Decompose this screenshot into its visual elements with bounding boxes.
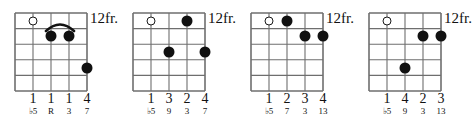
- finger-number: 3: [438, 92, 445, 106]
- chord-labels: 1324♭5937: [132, 92, 204, 124]
- fingered-note-dot: [164, 47, 175, 58]
- interval-row: ♭57313: [250, 107, 322, 122]
- fingered-note-dot: [300, 31, 311, 42]
- interval-label: 13: [437, 107, 446, 116]
- interval-label: ♭5: [265, 107, 274, 116]
- interval-label: 9: [403, 107, 408, 116]
- finger-number: 2: [184, 92, 191, 106]
- finger-number: 3: [302, 92, 309, 106]
- finger-number: 1: [66, 92, 73, 106]
- chord-diagram: 12fr.1114♭5R37: [0, 0, 118, 126]
- chord-labels: 1234♭57313: [250, 92, 322, 124]
- finger-number: 1: [266, 92, 273, 106]
- grid-lines: [14, 12, 88, 92]
- chord-labels: 1423♭59313: [368, 92, 440, 124]
- finger-number: 2: [420, 92, 427, 106]
- finger-number: 4: [202, 92, 209, 106]
- interval-label: 7: [85, 107, 90, 116]
- finger-number: 2: [284, 92, 291, 106]
- interval-label: ♭5: [383, 107, 392, 116]
- finger-number-row: 1114: [14, 92, 86, 107]
- interval-label: ♭5: [147, 107, 156, 116]
- finger-number-row: 1423: [368, 92, 440, 107]
- interval-label: 7: [203, 107, 208, 116]
- finger-number: 1: [148, 92, 155, 106]
- finger-number: 4: [84, 92, 91, 106]
- fretboard-grid: [132, 12, 204, 90]
- finger-number-row: 1234: [250, 92, 322, 107]
- fingered-note-dot: [436, 31, 447, 42]
- interval-label: ♭5: [29, 107, 38, 116]
- interval-label: 7: [285, 107, 290, 116]
- fret-position-label: 12fr.: [444, 11, 472, 26]
- interval-label: R: [48, 107, 54, 116]
- fingered-note-dot: [182, 15, 193, 26]
- fret-position-label: 12fr.: [208, 11, 236, 26]
- finger-number: 1: [384, 92, 391, 106]
- fretboard-grid: [250, 12, 322, 90]
- fingered-note-dot: [282, 15, 293, 26]
- chord-diagram: 12fr.1423♭59313: [354, 0, 472, 126]
- finger-number: 1: [48, 92, 55, 106]
- fingered-note-dot: [400, 62, 411, 73]
- fingered-note-dot: [46, 31, 57, 42]
- fretboard-grid: [368, 12, 440, 90]
- finger-number: 4: [402, 92, 409, 106]
- chord-labels: 1114♭5R37: [14, 92, 86, 124]
- interval-row: ♭5R37: [14, 107, 86, 122]
- interval-label: 9: [167, 107, 172, 116]
- interval-label: 3: [421, 107, 426, 116]
- open-string-marker: [147, 16, 156, 25]
- fingered-note-dot: [200, 47, 211, 58]
- fingered-note-dot: [64, 31, 75, 42]
- fingered-note-dot: [418, 31, 429, 42]
- open-string-marker: [265, 16, 274, 25]
- chord-diagram: 12fr.1324♭5937: [118, 0, 236, 126]
- interval-label: 13: [319, 107, 328, 116]
- grid-lines: [368, 12, 442, 92]
- fret-position-label: 12fr.: [90, 11, 118, 26]
- finger-number: 1: [30, 92, 37, 106]
- finger-number: 4: [320, 92, 327, 106]
- interval-row: ♭59313: [368, 107, 440, 122]
- interval-label: 3: [185, 107, 190, 116]
- open-string-marker: [29, 16, 38, 25]
- interval-row: ♭5937: [132, 107, 204, 122]
- open-string-marker: [383, 16, 392, 25]
- fret-position-label: 12fr.: [326, 11, 354, 26]
- interval-label: 3: [303, 107, 308, 116]
- interval-label: 3: [67, 107, 72, 116]
- finger-number-row: 1324: [132, 92, 204, 107]
- chord-diagram: 12fr.1234♭57313: [236, 0, 354, 126]
- finger-number: 3: [166, 92, 173, 106]
- chord-chart-sheet: 12fr.1114♭5R3712fr.1324♭593712fr.1234♭57…: [0, 0, 475, 126]
- fretboard-grid: [14, 12, 86, 90]
- fingered-note-dot: [82, 62, 93, 73]
- fingered-note-dot: [318, 31, 329, 42]
